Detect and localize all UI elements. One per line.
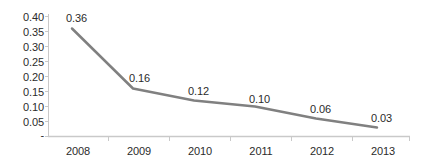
data-point-label: 0.03 (371, 113, 392, 124)
data-point-label: 0.12 (188, 86, 209, 97)
data-point-label: 0.10 (249, 94, 270, 105)
line-chart: 0.400.350.300.250.200.150.100.05- 200820… (0, 0, 421, 167)
data-point-label: 0.36 (66, 13, 87, 24)
data-label-group: 0.360.160.120.100.060.03 (0, 0, 421, 167)
data-point-label: 0.16 (129, 73, 150, 84)
data-point-label: 0.06 (310, 104, 331, 115)
